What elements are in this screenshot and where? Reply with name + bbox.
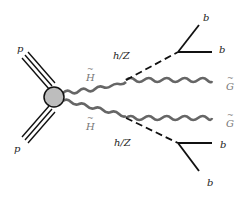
proton-line-bottom [22,106,55,143]
interaction-blob [44,87,64,107]
label-higgsino-bottom: H [86,122,95,132]
label-b-bottom-2: b [207,178,213,188]
label-b-bottom-1: b [220,140,226,150]
b-jet-bottom [178,143,212,171]
gravitino-line-top [126,78,212,82]
feynman-diagram: p p H H h/Z h/Z b b b b G G [0,0,247,200]
label-b-top-1: b [203,13,209,23]
label-b-top-2: b [219,45,225,55]
gravitino-line-bottom [126,116,212,120]
higgsino-line-top [63,82,126,93]
proton-line-top [22,52,55,89]
label-gravitino-bottom: G [226,119,234,129]
label-boson-top: h/Z [113,51,130,61]
b-jet-top [178,25,212,52]
label-proton-bottom: p [14,144,20,154]
label-boson-bottom: h/Z [114,138,131,148]
higgsino-line-bottom [63,100,126,117]
label-gravitino-top: G [226,82,234,92]
label-higgsino-top: H [86,73,95,83]
label-proton-top: p [17,44,23,54]
diagram-canvas [0,0,247,200]
boson-line-bottom [126,118,178,143]
boson-line-top [126,52,178,80]
